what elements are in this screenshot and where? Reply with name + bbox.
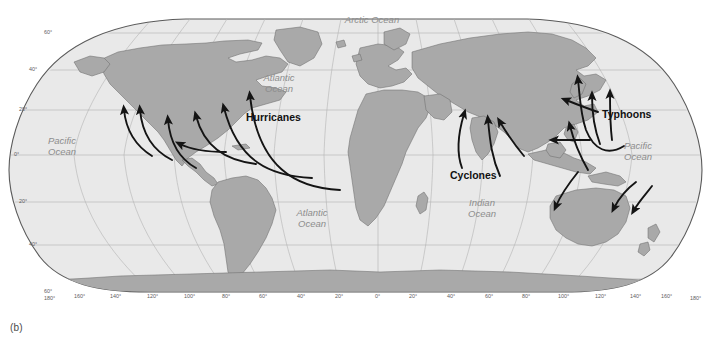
lat-tick-20n: 20° [19,106,27,112]
ocean-label-line: Ocean [35,147,89,158]
lon-tick-140e: 140° [630,293,641,299]
lon-tick-160w: 160° [74,293,85,299]
lon-tick-40w: 40° [297,293,305,299]
lon-tick-120w: 120° [147,293,158,299]
ocean-label-line: Ocean [285,219,339,230]
lat-tick-60n: 60° [44,29,52,35]
lon-tick-0: 0° [375,293,380,299]
lon-tick-60e: 60° [485,293,493,299]
ocean-label-indian-ocean: Indian Ocean [455,198,509,220]
lon-tick-120e: 120° [595,293,606,299]
lon-tick-20w: 20° [335,293,343,299]
figure-panel: Arctic Ocean Atlantic Ocean Pacific Ocea… [0,0,711,354]
lat-tick-40n: 40° [29,66,37,72]
lat-tick-60s: 60° [44,288,52,294]
ocean-label-pacific-ocean-east: Pacific Ocean [35,136,89,158]
ocean-label-pacific-ocean-west: Pacific Ocean [611,141,665,163]
ocean-label-line: Ocean [455,209,509,220]
lon-tick-60w: 60° [259,293,267,299]
lat-tick-20s: 20° [19,198,27,204]
lon-tick-100e: 100° [558,293,569,299]
lon-tick-180w: 180° [44,295,55,301]
panel-label: (b) [10,322,23,333]
storm-label-typhoons: Typhoons [602,108,651,120]
lon-tick-20e: 20° [409,293,417,299]
lon-tick-40e: 40° [447,293,455,299]
storm-label-cyclones: Cyclones [450,169,497,181]
ocean-label-atlantic-ocean-south: Atlantic Ocean [285,208,339,230]
ocean-label-atlantic-ocean-north: Atlantic Ocean [252,73,306,95]
lon-tick-180e: 180° [690,295,701,301]
ocean-label-line: Arctic Ocean [340,15,404,26]
lon-tick-140w: 140° [110,293,121,299]
lon-tick-160e: 160° [661,293,672,299]
lat-tick-40s: 40° [29,241,37,247]
lon-tick-80e: 80° [522,293,530,299]
lon-tick-100w: 100° [184,293,195,299]
ocean-label-line: Ocean [252,84,306,95]
map-svg [0,0,711,320]
ocean-label-line: Ocean [611,152,665,163]
storm-label-hurricanes: Hurricanes [246,111,301,123]
lat-tick-0: 0° [14,151,19,157]
world-map [0,0,711,320]
ocean-label-arctic-ocean: Arctic Ocean [340,15,404,26]
lon-tick-80w: 80° [222,293,230,299]
